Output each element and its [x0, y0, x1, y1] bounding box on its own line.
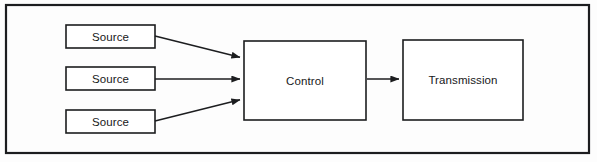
node-label-source-2: Source	[66, 67, 155, 90]
node-label-source-1: Source	[66, 25, 155, 48]
block-flow-diagram: Source Source Source Control Transmissio…	[0, 0, 597, 162]
node-label-transmission: Transmission	[403, 40, 523, 120]
edge-source1-control	[155, 36, 240, 57]
node-label-control: Control	[244, 41, 366, 120]
node-label-source-3: Source	[66, 110, 155, 133]
edge-source3-control	[155, 100, 240, 121]
